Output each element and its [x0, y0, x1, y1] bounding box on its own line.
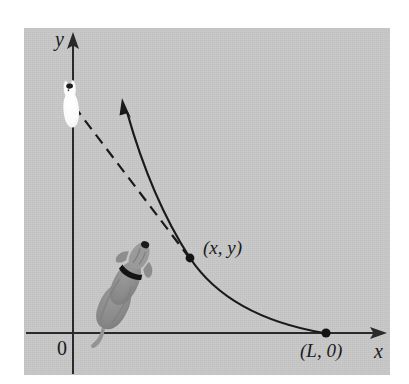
rabbit-icon: [61, 80, 80, 128]
pursuit-curve-group: [120, 98, 325, 333]
point-marker-xy: [186, 254, 195, 263]
point-label-l0: (L, 0): [300, 341, 342, 360]
figure-canvas: [0, 0, 409, 384]
axes-group: [26, 32, 387, 374]
dog-icon: [75, 233, 164, 357]
point-marker-l0: [321, 328, 330, 337]
curve-arrow-icon: [120, 98, 132, 118]
point-label-xy: (x, y): [203, 238, 242, 257]
y-axis-label: y: [55, 29, 64, 49]
pursuit-curve-figure: y x 0 (x, y) (L, 0): [0, 0, 409, 384]
pursuit-curve-path: [127, 112, 324, 333]
x-axis-label: x: [374, 341, 383, 361]
origin-label: 0: [57, 338, 67, 358]
